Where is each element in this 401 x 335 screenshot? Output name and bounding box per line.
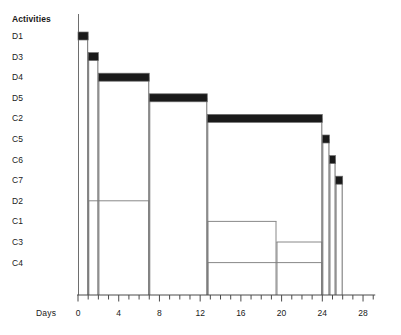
gantt-bar-c7 — [336, 176, 343, 295]
bar-body-d4 — [98, 73, 149, 81]
gantt-bar-c4 — [207, 263, 322, 295]
bar-body-c5 — [322, 135, 329, 143]
bar-body-c2 — [207, 114, 322, 122]
gantt-bar-d1 — [78, 32, 88, 295]
bar-body-d5 — [149, 94, 207, 102]
gantt-bar-d5 — [149, 94, 207, 295]
gantt-bar-c1 — [207, 221, 276, 295]
bar-body-d3 — [88, 53, 98, 61]
gantt-bar-c5 — [322, 135, 329, 295]
bar-body-c7 — [336, 176, 343, 184]
gantt-bar-d2 — [88, 201, 149, 295]
gantt-bar-d3 — [88, 53, 98, 295]
bar-body-c6 — [329, 156, 335, 164]
plot-area — [0, 0, 401, 335]
gantt-bar-c6 — [329, 156, 335, 295]
gantt-bar-c3 — [277, 242, 323, 295]
gantt-bar-c2 — [207, 114, 322, 295]
bars-layer — [78, 14, 343, 295]
bar-body-d1 — [78, 32, 88, 40]
axis-layer — [77, 295, 375, 302]
gantt-bar-d4 — [98, 73, 149, 295]
gantt-chart: Activities D1D3D4D5C2C5C6C7D2C1C3C4 Days… — [0, 0, 401, 335]
